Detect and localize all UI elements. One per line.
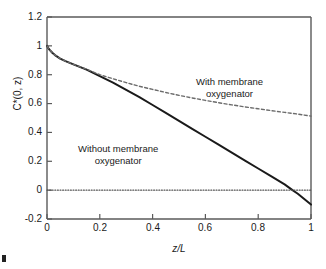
xtick-4: 0.8 — [243, 222, 273, 234]
series-line-1 — [47, 46, 311, 116]
axis-ticks — [47, 17, 311, 219]
axis-frame — [47, 17, 311, 219]
ytick-6: 0 — [8, 185, 42, 195]
annotation-with-line1: With membrane — [196, 76, 263, 88]
annotation-without-line2: oxygenator — [78, 155, 158, 167]
ytick-5: 0.2 — [8, 156, 42, 166]
ytick-0: 1.2 — [8, 12, 42, 22]
chart-figure: 1.2 1 0.8 0.6 0.4 0.2 0 -0.2 0 0.2 0.4 0… — [0, 0, 326, 269]
ytick-4: 0.4 — [8, 127, 42, 137]
ytick-1: 1 — [8, 41, 42, 51]
annotation-without-line1: Without membrane — [78, 143, 158, 155]
annotation-with-membrane-oxygenator: With membrane oxygenator — [196, 76, 263, 100]
y-axis-title: C*(0, z) — [12, 81, 23, 111]
data-series — [47, 46, 311, 205]
xtick-5: 1 — [296, 222, 326, 234]
xtick-3: 0.6 — [190, 222, 220, 234]
figure-caption-mark — [2, 255, 6, 262]
xtick-1: 0.2 — [85, 222, 115, 234]
x-axis-title: z/L — [47, 243, 311, 254]
xtick-2: 0.4 — [138, 222, 168, 234]
series-line-0 — [47, 46, 311, 205]
annotation-without-membrane-oxygenator: Without membrane oxygenator — [78, 143, 158, 167]
xtick-0: 0 — [32, 222, 62, 234]
annotation-with-line2: oxygenator — [196, 88, 263, 100]
